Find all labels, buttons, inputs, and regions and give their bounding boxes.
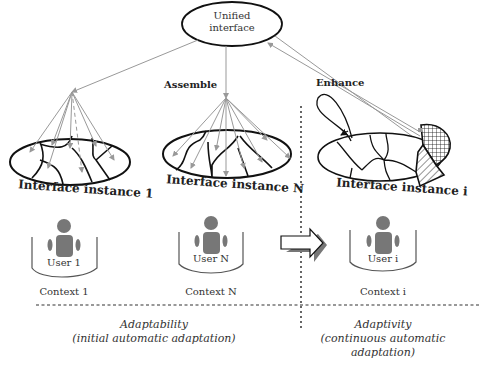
user-1-figure [32, 219, 97, 277]
interface-instance-1-shape [10, 92, 130, 185]
user-i-label: User i [358, 253, 408, 264]
transition-arrow-icon [281, 229, 327, 262]
unified-interface-label: Unified interface [192, 10, 272, 34]
adaptivity-title: Adaptivity [318, 318, 448, 332]
interface-instance-n-shape [163, 98, 291, 178]
context-1-label: Context 1 [24, 286, 104, 297]
adaptability-subtitle: (initial automatic adaptation) [64, 332, 244, 346]
unified-line-2: interface [192, 22, 272, 34]
assemble-label: Assemble [164, 79, 217, 90]
adaptivity-subtitle-2: adaptation) [318, 346, 448, 360]
unified-line-1: Unified [192, 10, 272, 22]
adaptability-title: Adaptability [64, 318, 244, 332]
user-1-label: User 1 [39, 257, 89, 268]
adaptivity-subtitle-1: (continuous automatic [318, 332, 448, 346]
adaptability-label: Adaptability (initial automatic adaptati… [64, 318, 244, 346]
interface-instance-i-shape [317, 94, 450, 186]
user-n-label: User N [186, 253, 236, 264]
context-i-label: Context i [343, 286, 423, 297]
enhance-line-2 [330, 82, 420, 136]
user-n-figure [179, 216, 243, 273]
enhance-label: Enhance [316, 77, 364, 88]
context-n-label: Context N [171, 286, 251, 297]
adaptivity-label: Adaptivity (continuous automatic adaptat… [318, 318, 448, 360]
